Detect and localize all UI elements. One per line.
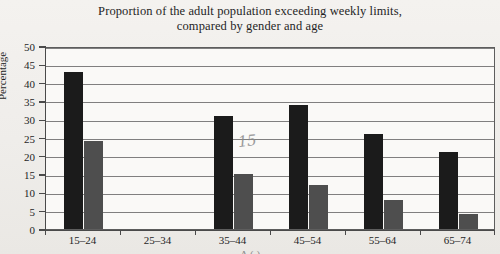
x-axis-label-15-24: 15–24 — [69, 234, 97, 247]
gridline — [46, 84, 494, 85]
gridline — [46, 212, 494, 213]
y-axis-tick — [39, 101, 46, 102]
x-axis-label-55-64: 55–64 — [369, 234, 397, 247]
y-axis-tick-label: 0 — [30, 225, 36, 236]
y-axis-tick-label: 25 — [24, 133, 35, 144]
x-axis — [45, 230, 495, 231]
y-axis-tick-label: 30 — [24, 115, 35, 126]
gridline — [46, 139, 494, 140]
x-axis-label-25-34: 25–34 — [144, 234, 172, 247]
y-axis-tick — [39, 156, 46, 157]
bar-65-74-women — [459, 214, 478, 229]
x-axis-tick-labels: 15–2425–3435–4445–5455–6465–74 — [45, 234, 495, 250]
gridline — [46, 194, 494, 195]
y-axis-tick-label: 45 — [24, 60, 35, 71]
gridline — [46, 176, 494, 177]
chart-title-line1: Proportion of the adult population excee… — [98, 4, 402, 18]
y-axis-title: Percentage — [0, 52, 8, 100]
y-axis-tick-label: 50 — [24, 42, 35, 53]
handwritten-annotation: 15 — [237, 131, 257, 151]
cut-off-axis-caption: A ( ) — [0, 249, 500, 254]
gridline — [46, 102, 494, 103]
bar-55-64-men — [364, 134, 383, 229]
y-axis-tick — [39, 211, 46, 212]
y-axis-tick-label: 10 — [24, 188, 35, 199]
y-axis-tick-label: 40 — [24, 78, 35, 89]
chart-title: Proportion of the adult population excee… — [0, 4, 500, 34]
gridline — [46, 48, 494, 49]
y-axis-tick-label: 15 — [24, 170, 35, 181]
gridline — [46, 121, 494, 122]
y-axis-tick-label: 20 — [24, 151, 35, 162]
bar-15-24-women — [84, 141, 103, 229]
y-axis-tick — [39, 138, 46, 139]
y-axis-tick-label: 5 — [30, 206, 36, 217]
gridline — [46, 157, 494, 158]
bar-45-54-women — [309, 185, 328, 229]
bar-35-44-men — [214, 116, 233, 229]
y-axis-tick — [39, 174, 46, 175]
bar-65-74-men — [439, 152, 458, 229]
gridlines — [46, 48, 494, 229]
gridline — [46, 66, 494, 67]
chart-title-line2: compared by gender and age — [0, 19, 500, 34]
y-axis: 05101520253035404550 — [38, 47, 46, 230]
x-axis-label-65-74: 65–74 — [444, 234, 472, 247]
y-axis-tick — [39, 83, 46, 84]
bar-45-54-men — [289, 105, 308, 229]
y-axis-tick — [39, 65, 46, 66]
bar-15-24-men — [64, 72, 83, 229]
x-axis-label-45-54: 45–54 — [294, 234, 322, 247]
y-axis-tick — [39, 46, 46, 47]
y-axis-tick-label: 35 — [24, 96, 35, 107]
plot-area — [45, 47, 495, 230]
bar-35-44-women — [234, 174, 253, 229]
y-axis-tick — [39, 193, 46, 194]
x-axis-label-35-44: 35–44 — [219, 234, 247, 247]
bar-55-64-women — [384, 200, 403, 229]
y-axis-tick — [39, 120, 46, 121]
